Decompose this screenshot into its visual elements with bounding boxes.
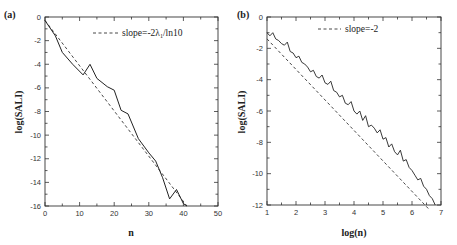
legend-b: slope=-2 xyxy=(318,24,379,34)
y-tick-label: -12 xyxy=(252,201,263,210)
x-tick-label: 0 xyxy=(43,209,47,218)
x-tick-label: 50 xyxy=(214,209,222,218)
x-tick-label: 1 xyxy=(265,208,269,217)
y-tick-label: -4 xyxy=(34,60,41,69)
y-tick-label: -10 xyxy=(252,169,263,178)
panel-label-b: (b) xyxy=(237,9,249,21)
x-tick-label: 5 xyxy=(381,208,385,217)
plot-frame-a xyxy=(45,17,218,206)
fit-line-a xyxy=(45,21,187,207)
y-tick-label: -8 xyxy=(256,138,263,147)
x-tick-label: 7 xyxy=(439,208,443,217)
data-line-b xyxy=(267,33,435,205)
y-axis-label-a: log(SALI) xyxy=(13,91,25,134)
y-tick-label: 0 xyxy=(37,13,41,22)
x-tick-label: 4 xyxy=(352,208,356,217)
legend-text-a: slope=-2λ1/ln10 xyxy=(122,28,183,39)
fit-line-b xyxy=(267,39,429,210)
y-tick-label: -14 xyxy=(30,178,41,187)
x-tick-label: 10 xyxy=(75,209,83,218)
y-tick-label: -12 xyxy=(30,154,41,163)
figure: 010203040500-2-4-6-8-10-12-14-16 (a) slo… xyxy=(0,0,457,245)
x-tick-label: 30 xyxy=(145,209,153,218)
y-tick-label: -16 xyxy=(30,202,41,211)
y-tick-label: -6 xyxy=(34,83,41,92)
x-tick-label: 3 xyxy=(323,208,327,217)
legend-a: slope=-2λ1/ln10 xyxy=(93,28,183,39)
x-axis-label-a: n xyxy=(128,227,134,238)
y-tick-label: -10 xyxy=(30,131,41,140)
y-tick-label: 0 xyxy=(259,13,263,22)
y-axis-label-b: log(SALI) xyxy=(236,91,248,134)
y-tick-label: -4 xyxy=(256,75,263,84)
y-tick-label: -6 xyxy=(256,107,263,116)
y-tick-label: -2 xyxy=(256,44,263,53)
x-tick-label: 6 xyxy=(410,208,414,217)
x-axis-label-b: log(n) xyxy=(342,227,367,239)
y-tick-label: -8 xyxy=(34,107,41,116)
x-tick-label: 40 xyxy=(179,209,187,218)
panel-label-a: (a) xyxy=(4,9,16,21)
legend-text-b: slope=-2 xyxy=(345,24,379,34)
x-tick-label: 20 xyxy=(110,209,118,218)
y-tick-label: -2 xyxy=(34,36,41,45)
panel-b: 12345670-2-4-6-8-10-12 (b) slope=-2 log(… xyxy=(236,9,443,239)
panel-a: 010203040500-2-4-6-8-10-12-14-16 (a) slo… xyxy=(4,9,222,238)
x-tick-label: 2 xyxy=(294,208,298,217)
